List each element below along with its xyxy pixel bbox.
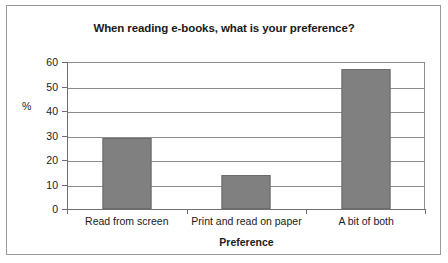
y-tick-label-30: 30 — [18, 130, 58, 142]
category-label-2: Print and read on paper — [187, 215, 307, 227]
x-axis-title: Preference — [67, 236, 426, 248]
bar-slot-1 — [67, 62, 187, 209]
bar-chart-figure: When reading e-books, what is your prefe… — [0, 0, 448, 263]
y-tick-label-50: 50 — [18, 81, 58, 93]
bar-slot-3 — [306, 62, 426, 209]
x-axis-line — [67, 209, 426, 210]
bars-layer — [67, 62, 426, 209]
bar-print-and-read-on-paper[interactable] — [222, 175, 271, 209]
y-tick-label-60: 60 — [18, 56, 58, 68]
x-tick-end — [425, 209, 426, 214]
y-tick-label-20: 20 — [18, 154, 58, 166]
x-tick-start — [67, 209, 68, 214]
chart-title: When reading e-books, what is your prefe… — [0, 22, 448, 34]
y-axis-title: % — [22, 100, 31, 112]
bar-a-bit-of-both[interactable] — [342, 69, 391, 209]
category-label-1: Read from screen — [67, 215, 187, 227]
y-tick-label-0: 0 — [18, 203, 58, 215]
bar-slot-2 — [187, 62, 307, 209]
y-tick-label-10: 10 — [18, 179, 58, 191]
bar-read-from-screen[interactable] — [102, 138, 151, 209]
x-tick-divider-1 — [187, 209, 188, 214]
x-tick-divider-2 — [306, 209, 307, 214]
category-label-3: A bit of both — [306, 215, 426, 227]
